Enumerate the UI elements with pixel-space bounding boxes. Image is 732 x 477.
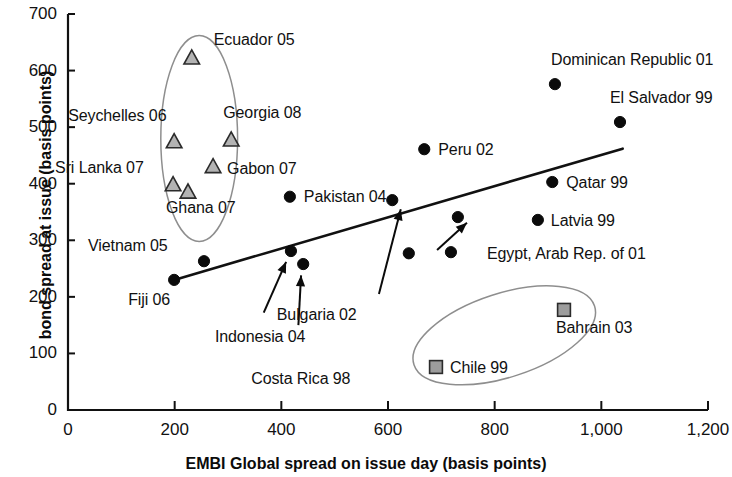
marker-gabon-07[interactable] xyxy=(205,159,221,173)
marker-bahrain-03[interactable] xyxy=(558,303,571,316)
marker-ecuador-05[interactable] xyxy=(184,50,200,64)
marker-seychelles-06[interactable] xyxy=(166,134,182,148)
y-tick-label-0: 0 xyxy=(0,400,57,420)
marker-latvia-99[interactable] xyxy=(532,214,543,225)
point-label-bahrain-03: Bahrain 03 xyxy=(556,319,632,337)
marker-georgia-08[interactable] xyxy=(223,132,239,146)
x-axis-title: EMBI Global spread on issue day (basis p… xyxy=(186,455,547,473)
marker-point-1-12[interactable] xyxy=(452,211,463,222)
marker-sri-lanka-07[interactable] xyxy=(165,177,181,191)
marker-qatar-99[interactable] xyxy=(547,176,558,187)
marker-point-1-13[interactable] xyxy=(387,195,398,206)
point-label-latvia-99: Latvia 99 xyxy=(551,212,615,230)
marker-dominican-republic-01[interactable] xyxy=(549,79,560,90)
point-label-sri-lanka-07: Sri Lanka 07 xyxy=(55,159,144,177)
point-label-ecuador-05: Ecuador 05 xyxy=(214,31,295,49)
point-label-qatar-99: Qatar 99 xyxy=(566,174,627,192)
point-label-indonesia-04: Indonesia 04 xyxy=(215,328,305,346)
y-axis-title: bond spread at issue (basis points) xyxy=(37,55,55,355)
x-tick-label-800: 800 xyxy=(480,420,508,440)
point-label-bulgaria-02: Bulgaria 02 xyxy=(277,306,357,324)
scatter-chart-figure: 010020030040050060070002004006008001,000… xyxy=(0,0,732,477)
point-label-gabon-07: Gabon 07 xyxy=(227,160,296,178)
marker-pakistan-04[interactable] xyxy=(284,191,295,202)
marker-egypt-arab-rep-of-01[interactable] xyxy=(445,247,456,258)
marker-chile-99[interactable] xyxy=(430,361,443,374)
marker-indonesia-04[interactable] xyxy=(285,245,296,256)
x-tick-label-1000: 1,000 xyxy=(580,420,623,440)
marker-vietnam-05[interactable] xyxy=(198,256,209,267)
point-label-chile-99: Chile 99 xyxy=(450,359,508,377)
x-tick-label-1200: 1,200 xyxy=(687,420,730,440)
bulgaria-leader xyxy=(379,209,401,294)
point-label-peru-02: Peru 02 xyxy=(438,141,493,159)
x-tick-label-600: 600 xyxy=(374,420,402,440)
x-tick-label-200: 200 xyxy=(160,420,188,440)
y-tick-label-700: 700 xyxy=(0,4,57,24)
marker-costa-rica-98[interactable] xyxy=(298,258,309,269)
point-label-fiji-06: Fiji 06 xyxy=(128,291,170,309)
point-label-vietnam-05: Vietnam 05 xyxy=(88,237,168,255)
costa-rica-leader-head xyxy=(296,275,305,286)
marker-el-salvador-99[interactable] xyxy=(614,116,625,127)
marker-bulgaria-02[interactable] xyxy=(403,248,414,259)
point-label-dominican-republic-01: Dominican Republic 01 xyxy=(551,51,713,69)
marker-peru-02[interactable] xyxy=(419,144,430,155)
point-label-ghana-07: Ghana 07 xyxy=(166,199,235,217)
point-label-seychelles-06: Seychelles 06 xyxy=(68,107,166,125)
x-tick-label-0: 0 xyxy=(63,420,72,440)
point-label-georgia-08: Georgia 08 xyxy=(223,104,301,122)
point-label-egypt-arab-rep-of-01: Egypt, Arab Rep. of 01 xyxy=(487,245,646,263)
marker-ghana-07[interactable] xyxy=(180,184,196,198)
marker-fiji-06[interactable] xyxy=(169,274,180,285)
point-label-pakistan-04: Pakistan 04 xyxy=(304,188,387,206)
x-tick-label-400: 400 xyxy=(267,420,295,440)
point-label-costa-rica-98: Costa Rica 98 xyxy=(251,370,350,388)
point-label-el-salvador-99: El Salvador 99 xyxy=(610,89,713,107)
